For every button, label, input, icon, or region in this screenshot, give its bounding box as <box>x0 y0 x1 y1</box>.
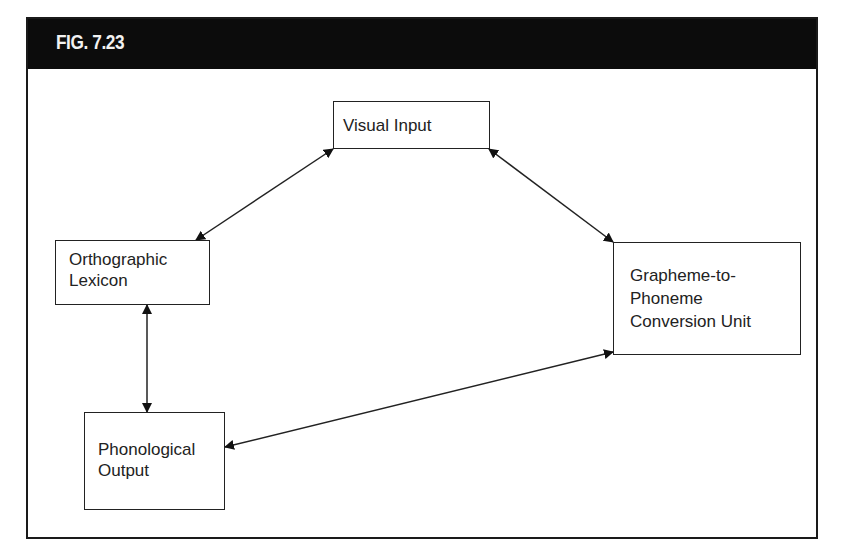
figure-header: FIG. 7.23 <box>28 19 816 69</box>
node-phonological-output: Phonological Output <box>84 412 225 510</box>
figure-title: FIG. 7.23 <box>56 30 124 54</box>
node-label: Orthographic Lexicon <box>69 249 167 291</box>
node-grapheme-to-phoneme: Grapheme-to- Phoneme Conversion Unit <box>613 242 801 355</box>
node-orthographic-lexicon: Orthographic Lexicon <box>55 240 210 305</box>
node-visual-input: Visual Input <box>333 101 490 149</box>
node-label: Phonological Output <box>98 439 195 481</box>
node-label: Grapheme-to- Phoneme Conversion Unit <box>630 264 751 333</box>
node-label: Visual Input <box>343 115 432 136</box>
